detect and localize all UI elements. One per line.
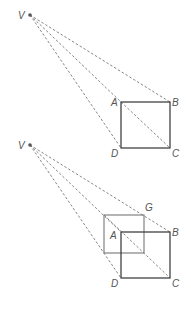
ray-v-b bbox=[30, 145, 170, 232]
label-b: B bbox=[172, 97, 179, 108]
dilation-diagram: V A B C D V A B C D G bbox=[0, 0, 191, 310]
label-b: B bbox=[172, 227, 179, 238]
ray-v-b bbox=[30, 15, 170, 102]
label-v: V bbox=[18, 10, 26, 21]
label-a: A bbox=[110, 97, 118, 108]
top-figure: V A B C D bbox=[18, 10, 180, 159]
label-v: V bbox=[18, 140, 26, 151]
bottom-figure: V A B C D G bbox=[18, 140, 180, 289]
label-g: G bbox=[145, 202, 153, 213]
center-point-v bbox=[28, 143, 32, 147]
center-point-v bbox=[28, 13, 32, 17]
label-d: D bbox=[111, 278, 118, 289]
ray-v-a bbox=[30, 145, 121, 232]
ray-a-c bbox=[121, 102, 170, 148]
label-c: C bbox=[172, 148, 180, 159]
label-c: C bbox=[172, 278, 180, 289]
ray-v-d bbox=[30, 15, 121, 148]
ray-v-d bbox=[30, 145, 121, 278]
ray-to-c bbox=[104, 215, 170, 278]
label-d: D bbox=[111, 148, 118, 159]
label-a: A bbox=[109, 230, 117, 241]
ray-v-a bbox=[30, 15, 121, 102]
